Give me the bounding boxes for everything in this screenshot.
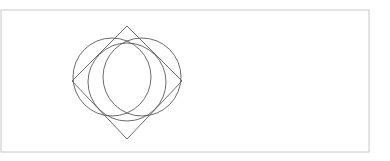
- left-offset-circle: [73, 38, 151, 116]
- inscribed-circle: [88, 43, 166, 121]
- figure-canvas: Diamond with three overlapping circles: [0, 0, 390, 161]
- geometric-figure-svg: [0, 0, 390, 161]
- outer-rectangle-border: [1, 10, 369, 152]
- right-offset-circle: [103, 38, 181, 116]
